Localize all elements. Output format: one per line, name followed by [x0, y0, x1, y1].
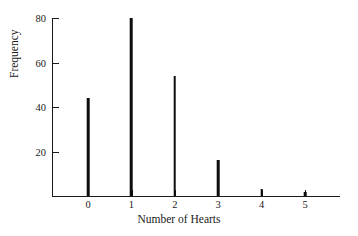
frequency-bar-chart: 20406080 012345 Number of Hearts Frequen… — [0, 0, 358, 236]
y-axis-tick — [53, 107, 59, 108]
y-axis-tick-label: 40 — [0, 107, 50, 108]
x-axis-tick-label: 2 — [172, 199, 177, 210]
bar — [217, 160, 220, 196]
x-axis-tick-label: 1 — [129, 199, 134, 210]
y-axis-tick-label-text: 20 — [36, 147, 47, 158]
y-axis-tick-label: 80 — [0, 18, 50, 19]
bar — [130, 18, 133, 196]
bar — [260, 189, 263, 196]
y-axis-tick-label-text: 40 — [36, 102, 47, 113]
bar — [304, 192, 307, 196]
x-axis-title: Number of Hearts — [0, 213, 358, 225]
y-axis-tick-label: 20 — [0, 152, 50, 153]
y-axis-title: Frequency — [8, 29, 20, 78]
x-axis-tick-label: 0 — [85, 199, 90, 210]
bar — [174, 76, 177, 196]
y-axis-tick-label-text: 80 — [36, 13, 47, 24]
x-axis-tick-label: 3 — [216, 199, 221, 210]
y-axis-tick — [53, 152, 59, 153]
bar — [87, 98, 90, 196]
y-axis-tick — [53, 18, 59, 19]
y-axis-tick — [53, 63, 59, 64]
x-axis-tick-label: 4 — [259, 199, 264, 210]
y-axis-tick-label-text: 60 — [36, 58, 47, 69]
x-axis-line — [52, 196, 340, 197]
x-axis-tick-label: 5 — [302, 199, 307, 210]
